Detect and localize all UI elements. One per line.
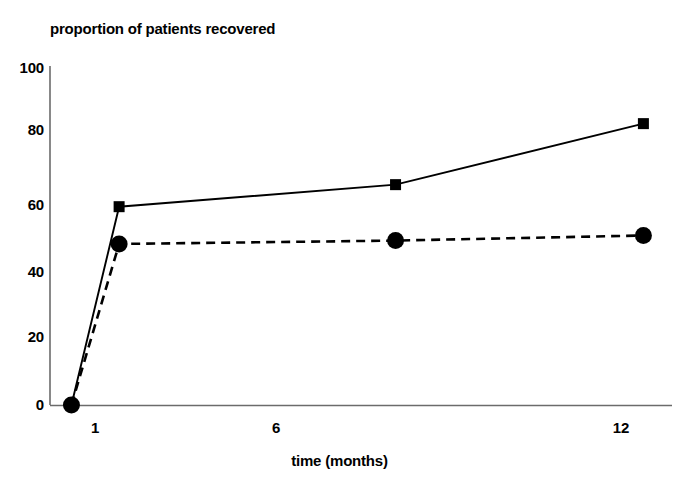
series-markers-square <box>114 118 649 212</box>
data-point-circle <box>111 235 128 252</box>
data-point-square <box>114 201 125 212</box>
series-line-dashed-circle <box>71 236 643 406</box>
plot-area <box>0 0 679 489</box>
data-point-square <box>390 179 401 190</box>
data-point-square <box>638 118 649 129</box>
chart-figure: proportion of patients recovered 100 80 … <box>0 0 679 489</box>
data-point-circle <box>63 397 80 414</box>
series-line-solid-square <box>71 124 643 405</box>
data-point-circle <box>387 232 404 249</box>
data-point-circle <box>635 227 652 244</box>
series-markers-circle <box>63 227 652 414</box>
